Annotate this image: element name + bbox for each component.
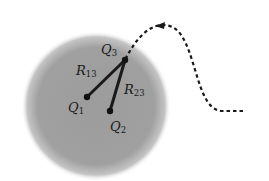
charge-point-q3 [122, 57, 128, 63]
label-q3: Q3 [101, 43, 117, 58]
arrow-head-icon [155, 22, 165, 29]
label-r13: R13 [76, 64, 97, 79]
label-r23: R23 [124, 83, 145, 98]
charge-region [21, 31, 171, 181]
label-q1: Q1 [68, 101, 84, 116]
label-q2: Q2 [110, 120, 126, 135]
charge-point-q1 [84, 94, 90, 100]
charge-point-q2 [107, 108, 113, 114]
